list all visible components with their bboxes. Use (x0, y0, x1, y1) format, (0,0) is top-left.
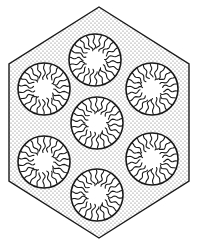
micelle-core (144, 151, 160, 167)
micelle-lower-left (18, 136, 70, 188)
micelle-core (89, 115, 105, 131)
micelle-core (144, 81, 160, 97)
micelle-center (71, 97, 123, 149)
micelle-top (69, 34, 121, 86)
micelle-core (36, 81, 52, 97)
micelle-hexagon-diagram (0, 0, 198, 249)
micelle-core (36, 154, 52, 170)
micelle-bottom (71, 169, 123, 221)
micelle-upper-right (126, 63, 178, 115)
micelle-upper-left (18, 63, 70, 115)
micelle-core (87, 52, 103, 68)
micelle-lower-right (126, 133, 178, 185)
micelle-core (89, 187, 105, 203)
